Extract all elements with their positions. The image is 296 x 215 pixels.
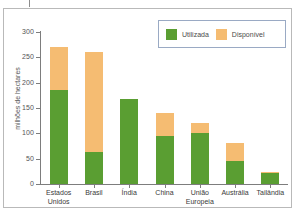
bar-segment-disponivel — [226, 143, 244, 161]
x-axis-tick — [200, 184, 201, 188]
bar-segment-disponivel — [85, 52, 103, 152]
legend-swatch-disponivel — [216, 29, 227, 40]
y-axis-tick-label: 50 — [26, 155, 34, 162]
bar-2 — [85, 52, 103, 184]
bar-segment-disponivel — [191, 123, 209, 133]
chart-figure: milhões de hectares 300250200150100500 E… — [0, 0, 296, 215]
plot-area: milhões de hectares 300250200150100500 E… — [0, 0, 296, 215]
bar-7 — [261, 172, 279, 184]
y-axis-tick-label: 250 — [22, 53, 34, 60]
bar-segment-utilizada — [156, 136, 174, 184]
y-axis-tick-label: 200 — [22, 79, 34, 86]
bar-segment-utilizada — [261, 173, 279, 184]
y-axis-tick — [36, 184, 40, 185]
x-axis-tick — [165, 184, 166, 188]
x-axis-tick — [59, 184, 60, 188]
x-axis-tick — [270, 184, 271, 188]
bar-segment-utilizada — [191, 133, 209, 184]
bar-5 — [191, 123, 209, 184]
y-axis-line — [40, 31, 41, 185]
y-axis-tick — [36, 57, 40, 58]
legend-item-disponivel: Disponível — [216, 29, 265, 40]
y-axis-tick-label: 150 — [22, 104, 34, 111]
bar-segment-utilizada — [85, 152, 103, 184]
y-axis-tick — [36, 32, 40, 33]
bar-segment-utilizada — [120, 99, 138, 184]
bar-4 — [156, 113, 174, 184]
y-axis-tick-label: 100 — [22, 129, 34, 136]
x-axis-line — [40, 184, 288, 185]
bar-segment-utilizada — [50, 90, 68, 184]
bar-segment-disponivel — [50, 47, 68, 90]
y-axis-tick-label: 0 — [30, 180, 34, 187]
bar-1 — [50, 47, 68, 184]
bar-segment-disponivel — [156, 113, 174, 137]
bar-3 — [120, 99, 138, 184]
y-axis-tick — [36, 83, 40, 84]
x-axis-tick — [235, 184, 236, 188]
legend-label-disponivel: Disponível — [232, 31, 265, 38]
y-axis-tick — [36, 133, 40, 134]
x-axis-tick — [94, 184, 95, 188]
legend-swatch-utilizada — [166, 29, 177, 40]
legend-label-utilizada: Utilizada — [182, 31, 209, 38]
legend-item-utilizada: Utilizada — [166, 29, 209, 40]
x-axis-tick — [129, 184, 130, 188]
bar-6 — [226, 143, 244, 184]
chart-legend: Utilizada Disponível — [158, 20, 286, 48]
x-axis-tick-label: Tailândia — [244, 189, 296, 198]
bar-segment-utilizada — [226, 161, 244, 184]
y-axis-title: milhões de hectares — [14, 44, 21, 154]
y-axis-tick-label: 300 — [22, 28, 34, 35]
y-axis-tick — [36, 159, 40, 160]
y-axis-tick — [36, 108, 40, 109]
